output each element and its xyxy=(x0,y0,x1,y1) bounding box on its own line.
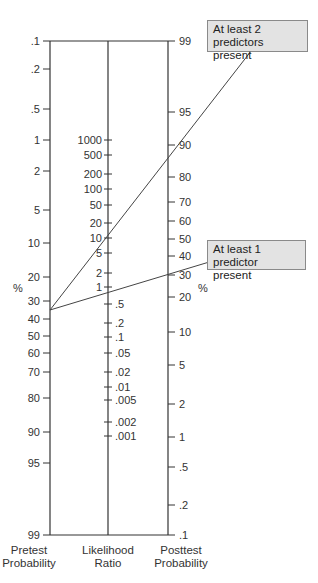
posttest-tick-label: 40 xyxy=(179,250,191,262)
posttest-tick-label: 10 xyxy=(179,326,191,338)
lr-title-line1: Likelihood xyxy=(82,544,134,556)
callout-two-predictors-line1: At least 2 predictors xyxy=(213,23,302,49)
posttest-tick-label: 95 xyxy=(179,106,191,118)
lr-title-line2: Ratio xyxy=(95,557,122,569)
pretest-tick-label: 50 xyxy=(28,330,40,342)
pretest-tick-label: 10 xyxy=(28,237,40,249)
posttest-tick-label: 70 xyxy=(179,196,191,208)
lr-tick-label: 1000 xyxy=(78,134,102,146)
lr-tick-label: 2 xyxy=(96,267,102,279)
fagan-nomogram: .1.2.51251020304050607080909599 10005002… xyxy=(0,0,318,583)
lr-tick-label: .2 xyxy=(115,317,124,329)
posttest-tick-label: .1 xyxy=(179,529,188,541)
lr-tick-label: .5 xyxy=(115,298,124,310)
pretest-tick-label: 99 xyxy=(28,529,40,541)
lr-tick-label: 20 xyxy=(90,217,102,229)
posttest-tick-label: 20 xyxy=(179,291,191,303)
lr-tick-label: .1 xyxy=(115,331,124,343)
lr-tick-label: 100 xyxy=(84,183,102,195)
posttest-tick-label: 60 xyxy=(179,215,191,227)
lr-tick-label: 10 xyxy=(90,232,102,244)
pretest-tick-label: 80 xyxy=(28,392,40,404)
lr-tick-label: .001 xyxy=(115,430,136,442)
posttest-tick-label: 99 xyxy=(179,35,191,47)
callout-two-predictors-line2: present xyxy=(213,49,302,62)
posttest-tick-label: .5 xyxy=(179,461,188,473)
pretest-tick-label: 40 xyxy=(28,313,40,325)
lr-tick-label: .01 xyxy=(115,381,130,393)
pretest-tick-label: 70 xyxy=(28,366,40,378)
pretest-ticks: .1.2.51251020304050607080909599 xyxy=(28,35,50,541)
pretest-tick-label: .1 xyxy=(31,35,40,47)
callout-two-predictors: At least 2 predictors present xyxy=(207,20,308,52)
pretest-tick-label: 2 xyxy=(34,165,40,177)
pretest-tick-label: 30 xyxy=(28,295,40,307)
lr-tick-label: 1 xyxy=(96,281,102,293)
pretest-tick-label: 5 xyxy=(34,204,40,216)
callout-one-predictor: At least 1 predictor present xyxy=(207,240,306,270)
pretest-tick-label: 20 xyxy=(28,271,40,283)
posttest-unit-label: % xyxy=(198,282,208,294)
pretest-title-line2: Probability xyxy=(2,557,56,569)
pretest-unit-label: % xyxy=(13,282,23,294)
posttest-tick-label: 50 xyxy=(179,233,191,245)
posttest-tick-label: .2 xyxy=(179,499,188,511)
lr-tick-label: .05 xyxy=(115,347,130,359)
posttest-tick-label: 1 xyxy=(179,431,185,443)
posttest-tick-label: 80 xyxy=(179,171,191,183)
posttest-title-line1: Posttest xyxy=(160,544,202,556)
callout-one-predictor-line1: At least 1 predictor xyxy=(213,243,300,269)
posttest-tick-label: 2 xyxy=(179,398,185,410)
lr-tick-label: .002 xyxy=(115,416,136,428)
lr-tick-label: 200 xyxy=(84,168,102,180)
pretest-tick-label: 90 xyxy=(28,426,40,438)
callout-one-predictor-line2: present xyxy=(213,269,300,282)
posttest-ticks: 9995908070605040302010521.5.2.1 xyxy=(168,35,191,541)
pretest-tick-label: 60 xyxy=(28,347,40,359)
pretest-tick-label: 1 xyxy=(34,134,40,146)
lr-tick-label: .02 xyxy=(115,366,130,378)
lr-tick-label: .005 xyxy=(115,394,136,406)
pretest-tick-label: .5 xyxy=(31,103,40,115)
likelihood-ratio-ticks: 1000500200100502010521.5.2.1.05.02.01.00… xyxy=(78,134,137,442)
lr-tick-label: 500 xyxy=(84,149,102,161)
pretest-title-line1: Pretest xyxy=(11,544,48,556)
lr-tick-label: 5 xyxy=(96,247,102,259)
pretest-tick-label: .2 xyxy=(31,63,40,75)
pretest-tick-label: 95 xyxy=(28,457,40,469)
posttest-title-line2: Probability xyxy=(154,557,208,569)
lr-tick-label: 50 xyxy=(90,199,102,211)
posttest-tick-label: 5 xyxy=(179,359,185,371)
